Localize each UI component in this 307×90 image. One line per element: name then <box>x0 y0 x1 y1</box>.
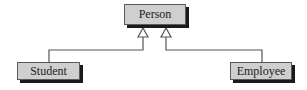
generalization-arrow-icon <box>161 28 171 37</box>
class-label: Employee <box>237 64 286 79</box>
class-box-employee: Employee <box>230 62 292 80</box>
class-label: Student <box>30 64 67 79</box>
class-box-person: Person <box>124 4 186 25</box>
class-label: Person <box>139 7 172 22</box>
generalization-arrow-icon <box>138 28 148 37</box>
employee-to-person-line <box>166 37 262 62</box>
class-box-student: Student <box>17 62 80 80</box>
student-to-person-line <box>49 37 143 62</box>
